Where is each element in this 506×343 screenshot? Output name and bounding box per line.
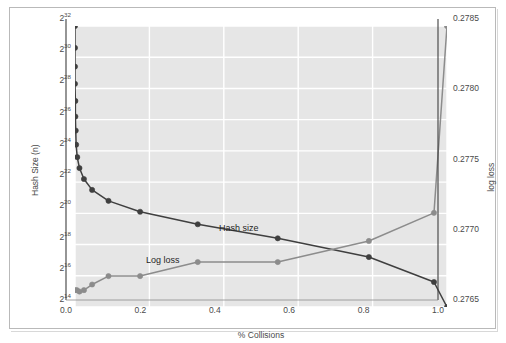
- x-axis-tick-label: 0.2: [134, 306, 146, 315]
- x-axis-tick-label: 0.4: [209, 306, 221, 315]
- chart-figure: Hash size Log loss Hash Size (n) log los…: [0, 0, 506, 343]
- x-axis-tick-label: 1.0: [432, 306, 444, 315]
- x-axis-ticks: 0.00.20.40.60.81.0: [10, 8, 506, 343]
- figure-frame: Hash size Log loss Hash Size (n) log los…: [9, 7, 496, 329]
- x-axis-tick-label: 0.0: [60, 306, 72, 315]
- x-axis-tick-label: 0.8: [358, 306, 370, 315]
- x-axis-tick-label: 0.6: [283, 306, 295, 315]
